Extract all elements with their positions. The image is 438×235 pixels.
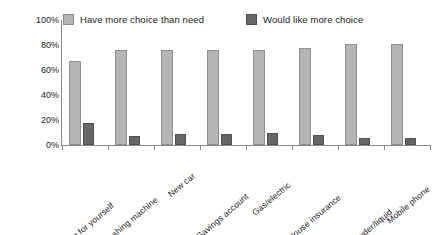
bar — [313, 135, 324, 145]
y-axis-tick-label: 0% — [46, 140, 59, 150]
x-axis-label: Mobile phone — [384, 184, 431, 226]
x-axis-label: Savings account — [194, 191, 250, 235]
bar-group — [200, 20, 246, 145]
bar — [359, 138, 370, 146]
bar — [253, 50, 265, 145]
x-axis-label: Clothing for yourself — [49, 200, 116, 235]
x-axis-tick-mark — [430, 145, 431, 150]
bar-chart: Have more choice than need Would like mo… — [0, 0, 438, 235]
plot-area — [62, 20, 430, 145]
x-axis-label: Washing powder/liquid — [320, 207, 394, 235]
bar-group — [338, 20, 384, 145]
y-axis-tick-label: 80% — [41, 40, 59, 50]
bar — [129, 136, 140, 145]
x-axis-label: Gas/electric — [250, 180, 292, 218]
bar — [175, 134, 186, 145]
y-axis-tick-label: 40% — [41, 90, 59, 100]
bar — [69, 61, 81, 145]
x-axis-label: House insurance — [285, 192, 342, 235]
bar-group — [62, 20, 108, 145]
bar-group — [154, 20, 200, 145]
bar — [83, 123, 94, 146]
y-axis-tick-label: 100% — [36, 15, 59, 25]
bar-group — [108, 20, 154, 145]
x-axis-labels: Clothing for yourselfWashing machineNew … — [62, 150, 430, 230]
bar — [345, 44, 357, 145]
bar — [405, 138, 416, 146]
bar-group — [292, 20, 338, 145]
bar — [207, 50, 219, 145]
bar-group — [384, 20, 430, 145]
x-axis-label: New car — [165, 171, 196, 199]
y-axis-tick-label: 60% — [41, 65, 59, 75]
bar-group — [246, 20, 292, 145]
bar — [299, 48, 311, 146]
y-axis-tick-label: 20% — [41, 115, 59, 125]
bar — [267, 133, 278, 146]
bar — [221, 134, 232, 145]
bar — [115, 50, 127, 145]
bar-groups — [62, 20, 430, 145]
bar — [161, 50, 173, 145]
bar — [391, 44, 403, 145]
